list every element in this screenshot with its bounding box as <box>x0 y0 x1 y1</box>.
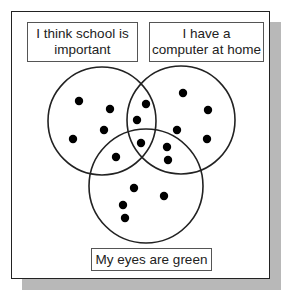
data-dot <box>100 126 108 134</box>
data-dot <box>119 201 127 209</box>
set-label-computer: I have a computer at home <box>149 22 264 62</box>
data-dot <box>160 192 168 200</box>
set-label-computer-line2: computer at home <box>152 42 261 58</box>
data-dot <box>142 100 150 108</box>
set-label-eyes-text: My eyes are green <box>96 252 208 268</box>
data-dot <box>173 126 181 134</box>
data-dot <box>130 184 138 192</box>
data-dot <box>106 105 114 113</box>
set-label-computer-line1: I have a <box>152 26 261 42</box>
data-dot <box>204 106 212 114</box>
set-label-school-line1: I think school is <box>36 26 128 42</box>
data-dot <box>163 143 171 151</box>
data-dot <box>137 139 145 147</box>
data-dot <box>69 135 77 143</box>
data-dot <box>179 89 187 97</box>
data-dot <box>75 97 83 105</box>
data-dot <box>112 153 120 161</box>
set-circle-computer <box>127 66 235 174</box>
set-label-school-line2: important <box>36 42 128 58</box>
data-dot <box>133 116 141 124</box>
set-label-eyes: My eyes are green <box>91 248 212 271</box>
data-dot <box>121 214 129 222</box>
data-dot <box>164 156 172 164</box>
data-dot <box>203 135 211 143</box>
set-label-school: I think school is important <box>27 22 138 62</box>
set-circle-eyes <box>89 129 203 243</box>
